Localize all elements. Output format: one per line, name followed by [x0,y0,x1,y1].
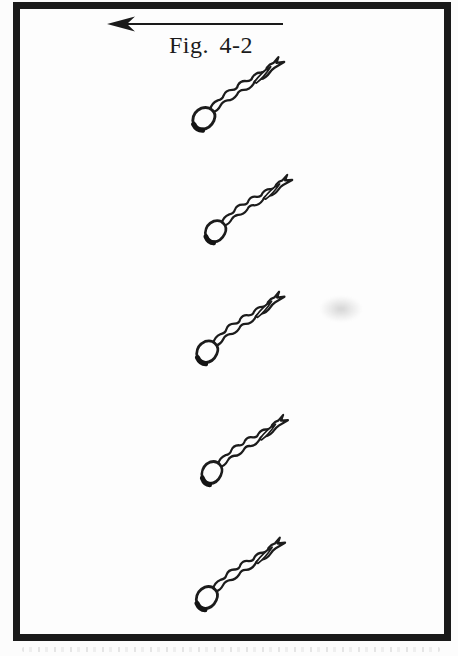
scanned-figure-page: Fig. 4-2 [0,0,458,656]
swimmer-figure-3 [192,288,288,375]
left-arrow-icon [106,15,286,33]
scan-noise-artifact [22,647,440,652]
swimmer-figure-2 [200,168,296,256]
swimmer-figure-4 [196,407,292,500]
swimmer-figure-1 [188,55,288,140]
scan-smudge-artifact [320,296,362,322]
swimmer-figure-5 [191,533,289,623]
